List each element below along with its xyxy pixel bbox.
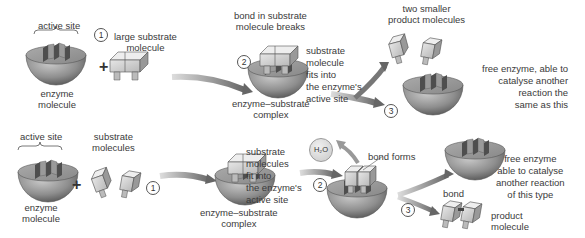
label-line: molecule	[306, 57, 362, 69]
label-line: another reaction	[496, 177, 565, 189]
step-number-3-bottom: 3	[401, 203, 415, 217]
label-line: active site	[306, 93, 362, 105]
label-line: molecules	[92, 142, 135, 153]
label-line: free enzyme	[496, 153, 565, 165]
label-line: molecule	[114, 42, 177, 53]
label-product-molecule: product molecule	[491, 210, 529, 232]
label-line: enzyme–substrate	[232, 98, 310, 109]
step-number-3-top: 3	[384, 104, 398, 118]
label-line: fit into	[246, 170, 302, 182]
label-substrate-fits: substrate molecule fits into the enzyme'…	[306, 45, 362, 105]
label-enzyme-molecule-top: enzyme molecule	[38, 88, 76, 110]
label-line: product	[491, 210, 529, 221]
step-number-1-top: 1	[94, 28, 108, 42]
plus-sign-top: +	[99, 58, 108, 76]
label-line: substrate	[246, 146, 302, 158]
water-molecule: H₂O	[309, 138, 333, 162]
step-number-2-top: 2	[237, 55, 251, 69]
label-line: enzyme	[22, 202, 60, 213]
label-line: molecule breaks	[234, 21, 307, 32]
label-bond-forms: bond forms	[368, 151, 416, 162]
label-bond-breaks: bond in substrate molecule breaks	[234, 10, 307, 32]
label-line: active site	[246, 194, 302, 206]
label-line: the enzyme's	[306, 81, 362, 93]
label-line: same as this	[482, 99, 568, 111]
label-product-molecules: two smaller product molecules	[388, 3, 465, 25]
label-line: reaction the	[482, 87, 568, 99]
label-line: molecule	[491, 221, 529, 232]
label-line: the enzyme's	[246, 182, 302, 194]
label-line: of this type	[496, 189, 565, 201]
label-line: enzyme	[38, 88, 76, 99]
label-active-site-bottom: active site	[20, 131, 62, 142]
label-line: large substrate	[114, 31, 177, 42]
label-line: molecule	[38, 99, 76, 110]
label-line: substrate	[92, 131, 135, 142]
label-line: substrate	[306, 45, 362, 57]
label-line: complex	[200, 218, 278, 229]
label-line: catalyse another	[482, 75, 568, 87]
step-number-1-bottom: 1	[146, 181, 160, 195]
label-line: able to catalyse	[496, 165, 565, 177]
label-free-enzyme-bottom: free enzyme able to catalyse another rea…	[496, 153, 565, 201]
label-free-enzyme-top: free enzyme, able to catalyse another re…	[482, 63, 568, 111]
label-complex-bottom: enzyme–substrate complex	[200, 207, 278, 229]
label-line: two smaller	[388, 3, 465, 14]
enzyme-molecule-top	[26, 43, 86, 85]
label-line: molecules	[246, 158, 302, 170]
label-line: molecule	[22, 213, 60, 224]
label-complex-top: enzyme–substrate complex	[232, 98, 310, 120]
label-line: bond in substrate	[234, 10, 307, 21]
plus-sign-bottom: +	[72, 176, 81, 194]
label-enzyme-molecule-bottom: enzyme molecule	[22, 202, 60, 224]
label-bond: bond	[443, 188, 464, 199]
label-line: product molecules	[388, 14, 465, 25]
label-active-site-top: active site	[38, 20, 80, 31]
label-substrates-fit: substrate molecules fit into the enzyme'…	[246, 146, 302, 206]
label-substrate-molecules: substrate molecules	[92, 131, 135, 153]
step-number-2-bottom: 2	[313, 178, 327, 192]
label-line: enzyme–substrate	[200, 207, 278, 218]
label-line: fits into	[306, 69, 362, 81]
label-line: free enzyme, able to	[482, 63, 568, 75]
label-large-substrate: large substrate molecule	[114, 31, 177, 53]
label-line: complex	[232, 109, 310, 120]
